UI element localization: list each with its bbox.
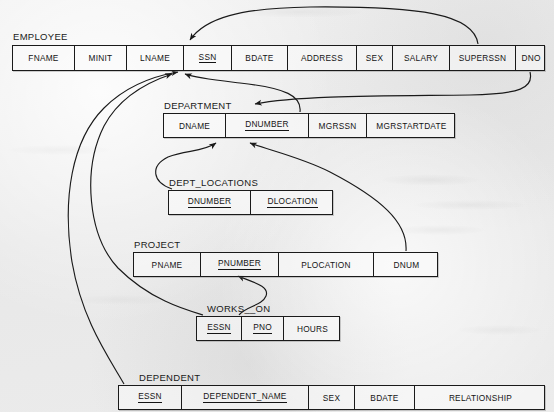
- attribute-label: PNO: [253, 323, 272, 333]
- attribute-dno[interactable]: DNO: [516, 46, 546, 70]
- attribute-label: LNAME: [140, 53, 170, 63]
- attribute-label: SALARY: [404, 53, 438, 63]
- attribute-label: SEX: [366, 53, 383, 63]
- attribute-label: ADDRESS: [301, 53, 343, 63]
- relation-table-department: DNAMEDNUMBERMGRSSNMGRSTARTDATE: [163, 113, 455, 138]
- relation-name-department: DEPARTMENT: [164, 100, 232, 111]
- attribute-dnum[interactable]: DNUM: [374, 253, 439, 276]
- attribute-label: BDATE: [245, 53, 273, 63]
- attribute-dnumber[interactable]: DNUMBER: [226, 114, 309, 137]
- attribute-dnumber[interactable]: DNUMBER: [169, 191, 251, 214]
- relation-name-works__on: WORKS__ON: [207, 303, 270, 314]
- attribute-label: ESSN: [207, 323, 231, 333]
- attribute-label: DNAME: [179, 121, 210, 131]
- attribute-bdate[interactable]: BDATE: [355, 386, 415, 409]
- attribute-hours[interactable]: HOURS: [284, 317, 341, 340]
- attribute-label: MGRSTARTDATE: [376, 121, 446, 131]
- attribute-superssn[interactable]: SUPERSSN: [450, 46, 516, 70]
- fk-dno-to-dnumber: [255, 72, 531, 104]
- attribute-sex[interactable]: SEX: [357, 46, 393, 70]
- attribute-fname[interactable]: FNAME: [13, 46, 75, 70]
- relation-table-employee: FNAMEMINITLNAMESSNBDATEADDRESSSEXSALARYS…: [12, 45, 545, 71]
- attribute-mgrstartdate[interactable]: MGRSTARTDATE: [367, 114, 456, 137]
- attribute-dlocation[interactable]: DLOCATION: [251, 191, 334, 214]
- attribute-lname[interactable]: LNAME: [127, 46, 184, 70]
- attribute-label: FNAME: [28, 53, 58, 63]
- attribute-pno[interactable]: PNO: [242, 317, 284, 340]
- attribute-label: MGRSSN: [319, 121, 357, 131]
- attribute-essn[interactable]: ESSN: [197, 317, 242, 340]
- relation-table-works__on: ESSNPNOHOURS: [196, 316, 340, 341]
- attribute-label: RELATIONSHIP: [449, 393, 512, 403]
- attribute-label: SSN: [199, 53, 217, 63]
- relation-name-dependent: DEPENDENT: [139, 372, 200, 383]
- attribute-label: MINIT: [89, 53, 113, 63]
- attribute-label: HOURS: [297, 324, 328, 334]
- attribute-sex[interactable]: SEX: [309, 386, 355, 409]
- schema-diagram: EMPLOYEEFNAMEMINITLNAMESSNBDATEADDRESSSE…: [0, 0, 554, 412]
- relation-name-employee: EMPLOYEE: [13, 31, 68, 42]
- attribute-label: PNAME: [152, 260, 183, 270]
- attribute-dname[interactable]: DNAME: [164, 114, 226, 137]
- relation-table-project: PNAMEPNUMBERPLOCATIONDNUM: [133, 252, 438, 277]
- attribute-ssn[interactable]: SSN: [184, 46, 232, 70]
- attribute-label: DNUMBER: [188, 197, 232, 207]
- attribute-salary[interactable]: SALARY: [393, 46, 450, 70]
- relation-name-project: PROJECT: [134, 239, 180, 250]
- attribute-label: SUPERSSN: [459, 53, 507, 63]
- relation-name-dept_locations: DEPT_LOCATIONS: [169, 177, 258, 188]
- attribute-label: DNO: [521, 53, 540, 63]
- attribute-label: SEX: [323, 393, 340, 403]
- attribute-relationship[interactable]: RELATIONSHIP: [415, 386, 546, 409]
- attribute-dependent_name[interactable]: DEPENDENT_NAME: [182, 386, 309, 409]
- attribute-pname[interactable]: PNAME: [134, 253, 201, 276]
- attribute-bdate[interactable]: BDATE: [232, 46, 288, 70]
- attribute-label: PLOCATION: [301, 260, 351, 270]
- attribute-pnumber[interactable]: PNUMBER: [201, 253, 279, 276]
- attribute-minit[interactable]: MINIT: [75, 46, 127, 70]
- attribute-label: DNUM: [394, 260, 420, 270]
- attribute-essn[interactable]: ESSN: [119, 386, 182, 409]
- relation-table-dependent: ESSNDEPENDENT_NAMESEXBDATERELATIONSHIP: [118, 385, 545, 410]
- attribute-label: DNUMBER: [245, 120, 289, 130]
- fk-superssn-to-ssn: [190, 7, 478, 44]
- attribute-mgrssn[interactable]: MGRSSN: [309, 114, 367, 137]
- attribute-label: PNUMBER: [218, 259, 261, 269]
- attribute-address[interactable]: ADDRESS: [288, 46, 357, 70]
- attribute-label: ESSN: [138, 392, 162, 402]
- attribute-label: DEPENDENT_NAME: [203, 392, 286, 402]
- relation-table-dept_locations: DNUMBERDLOCATION: [168, 190, 333, 215]
- attribute-plocation[interactable]: PLOCATION: [279, 253, 374, 276]
- attribute-label: BDATE: [370, 393, 398, 403]
- fk-dependent-essn-to-ssn: [68, 72, 178, 384]
- attribute-label: DLOCATION: [267, 197, 317, 207]
